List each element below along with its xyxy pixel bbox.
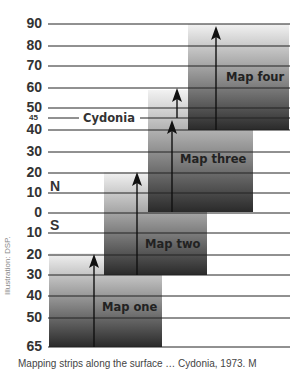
tick-label: 90 [0, 16, 42, 30]
cydonia-label: Cydonia [79, 112, 139, 124]
tick-label: 60 [0, 80, 42, 94]
tick-label: 70 [0, 58, 42, 72]
map-label: Map two [145, 237, 200, 251]
tick-label: 10 [0, 185, 42, 199]
tick-label: 30 [0, 144, 42, 158]
figure-caption: Mapping strips along the surface … Cydon… [18, 358, 256, 369]
tick-label: 50 [0, 100, 42, 114]
tick-label: 20 [0, 165, 42, 179]
tick-label: 65 [0, 339, 42, 353]
tick-label: 80 [0, 38, 42, 52]
south-label: S [50, 217, 59, 233]
illustration-credit: Illustration: DSP. [3, 236, 12, 295]
north-label: N [50, 178, 60, 194]
tick-label: 40 [0, 122, 42, 136]
map-label: Map one [102, 300, 157, 314]
map-label: Map four [226, 70, 284, 84]
map-label: Map three [180, 152, 246, 166]
tick-label: 50 [0, 310, 42, 324]
tick-label: 0 [0, 205, 42, 219]
